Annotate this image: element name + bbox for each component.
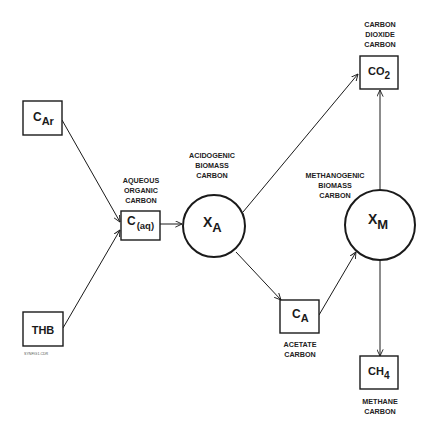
carbon-flow-diagram: CAr THB SYNFIG1.CDR AQUEOUS ORGANIC CARB… bbox=[0, 0, 437, 431]
node-co2-label-2: DIOXIDE bbox=[365, 30, 395, 39]
node-x-a: ACIDOGENIC BIOMASS CARBON XA bbox=[183, 151, 245, 257]
node-co2-subscript: 2 bbox=[385, 70, 391, 81]
edge-xa-to-ca bbox=[236, 252, 281, 300]
node-co2-label-1: CARBON bbox=[364, 20, 396, 29]
node-x-a-subscript: A bbox=[212, 220, 222, 235]
node-x-m-label-3: CARBON bbox=[319, 191, 351, 200]
node-ch4-subscript: 4 bbox=[384, 370, 390, 381]
node-c-aq-subscript: (aq) bbox=[137, 220, 154, 231]
edge-car-to-caq bbox=[62, 120, 120, 222]
node-c-ar-symbol: C bbox=[33, 110, 42, 124]
edge-thb-to-caq bbox=[63, 230, 120, 328]
node-c-a-label-1: ACETATE bbox=[284, 340, 317, 349]
node-co2: CARBON DIOXIDE CARBON CO2 bbox=[360, 20, 398, 89]
node-x-a-label-3: CARBON bbox=[196, 171, 228, 180]
node-c-aq-symbol: C bbox=[127, 214, 136, 228]
node-c-ar: CAr bbox=[23, 101, 62, 135]
node-x-m: METHANOGENIC BIOMASS CARBON XM bbox=[305, 171, 415, 260]
node-c-a-label-2: CARBON bbox=[284, 350, 316, 359]
node-ch4-label-1: METHANE bbox=[362, 397, 398, 406]
node-c-aq-label-2: ORGANIC bbox=[124, 186, 158, 195]
node-c-a-subscript: A bbox=[301, 312, 309, 324]
node-c-ar-subscript: Ar bbox=[42, 115, 55, 127]
node-co2-label-3: CARBON bbox=[364, 40, 396, 49]
node-ch4-symbol: CH bbox=[368, 365, 384, 377]
node-c-a: CA ACETATE CARBON bbox=[280, 300, 319, 359]
node-x-m-subscript: M bbox=[377, 217, 388, 232]
node-c-a-symbol: C bbox=[292, 307, 301, 321]
node-x-a-label-2: BIOMASS bbox=[195, 161, 229, 170]
edge-ca-to-xm bbox=[319, 252, 356, 315]
node-thb: THB bbox=[23, 312, 63, 346]
node-x-a-label-1: ACIDOGENIC bbox=[189, 151, 235, 160]
node-c-aq-label-3: CARBON bbox=[125, 196, 157, 205]
footnote: SYNFIG1.CDR bbox=[24, 352, 49, 356]
node-x-m-label-2: BIOMASS bbox=[318, 181, 352, 190]
node-co2-symbol: CO bbox=[368, 65, 385, 77]
node-c-aq: AQUEOUS ORGANIC CARBON C(aq) bbox=[121, 176, 160, 240]
node-thb-symbol: THB bbox=[32, 324, 55, 336]
node-c-aq-label-1: AQUEOUS bbox=[123, 176, 160, 185]
node-ch4-label-2: CARBON bbox=[364, 407, 396, 416]
node-x-m-label-1: METHANOGENIC bbox=[305, 171, 364, 180]
node-ch4: CH4 METHANE CARBON bbox=[360, 356, 398, 416]
